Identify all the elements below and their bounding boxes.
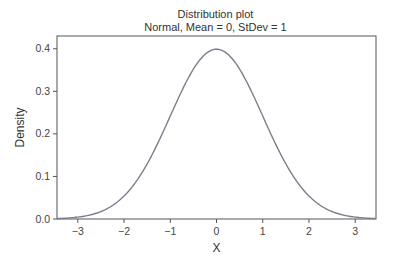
x-tick-label: −2	[118, 225, 130, 237]
x-tick-label: 2	[306, 225, 312, 237]
distribution-plot: 0.00.10.20.30.4 −3−2−10123 X Density	[0, 0, 393, 261]
x-axis: −3−2−10123	[72, 219, 358, 237]
y-tick-label: 0.3	[35, 85, 50, 97]
y-tick-label: 0.2	[35, 127, 50, 139]
x-tick-label: −1	[164, 225, 176, 237]
y-tick-label: 0.4	[35, 42, 50, 54]
y-axis: 0.00.10.20.30.4	[35, 42, 57, 224]
density-curve	[57, 49, 376, 218]
y-tick-label: 0.1	[35, 170, 50, 182]
y-tick-label: 0.0	[35, 213, 50, 225]
x-axis-label: X	[212, 241, 220, 255]
x-tick-label: −3	[72, 225, 84, 237]
x-tick-label: 1	[260, 225, 266, 237]
x-tick-label: 3	[352, 225, 358, 237]
y-axis-label: Density	[13, 107, 27, 147]
x-tick-label: 0	[214, 225, 220, 237]
plot-frame	[57, 36, 376, 219]
